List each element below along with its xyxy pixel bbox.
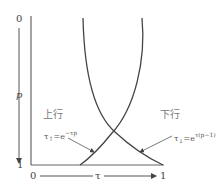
tau-axis-right-tick: 1 bbox=[160, 171, 166, 181]
eq-rest: =e bbox=[183, 134, 194, 143]
upward-equation: τ↑=e−τp bbox=[44, 128, 77, 144]
downward-equation: τ↓=eτ(p−1) bbox=[174, 130, 216, 146]
p-axis-top-tick: 0 bbox=[16, 14, 22, 24]
curve-upward bbox=[80, 18, 143, 165]
tau-axis-left-tick: 0 bbox=[30, 171, 36, 181]
upward-label: 上行 bbox=[43, 110, 63, 120]
eq-sup: −τp bbox=[65, 129, 77, 136]
p-axis-label: p bbox=[16, 90, 22, 100]
tau-axis-label: τ bbox=[95, 171, 101, 181]
pointer-down-label bbox=[140, 136, 172, 152]
downward-label: 下行 bbox=[160, 110, 180, 120]
curve-downward bbox=[83, 18, 163, 165]
diagram-canvas bbox=[0, 0, 222, 189]
eq-rest: =e bbox=[53, 132, 64, 141]
eq-sup: τ(p−1) bbox=[195, 131, 216, 138]
p-axis-bottom-tick: 1 bbox=[17, 160, 23, 170]
